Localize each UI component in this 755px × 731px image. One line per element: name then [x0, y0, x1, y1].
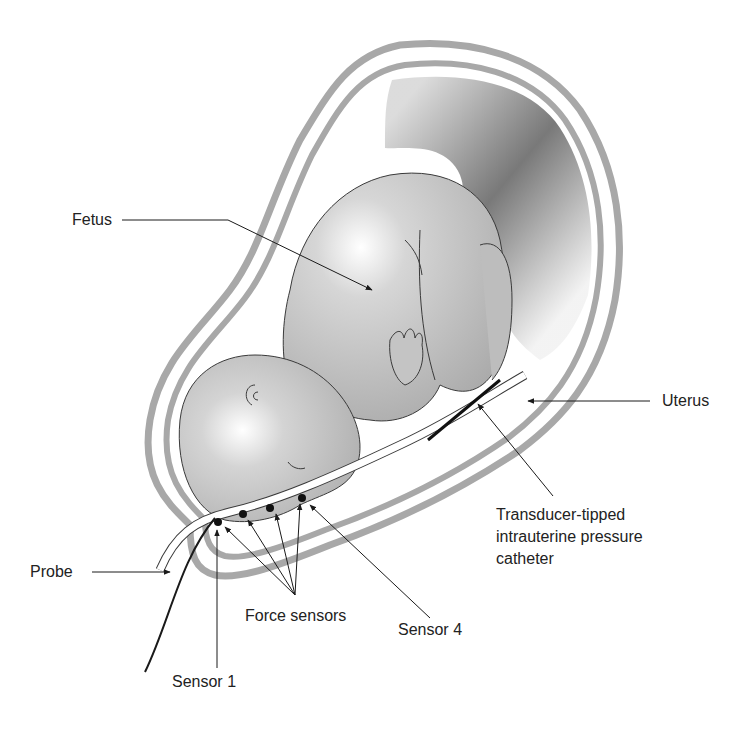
uterus-label: Uterus [662, 391, 709, 411]
catheter-label-line1: Transducer-tipped [496, 505, 625, 525]
fetus-label: Fetus [72, 210, 112, 230]
catheter-label-line2: intrauterine pressure [496, 527, 643, 547]
catheter-label-line3: catheter [496, 549, 554, 569]
force-sensors-label: Force sensors [245, 606, 346, 626]
probe-label: Probe [30, 562, 73, 582]
sensor-4 [298, 494, 306, 502]
sensor-1-label: Sensor 1 [172, 672, 236, 692]
sensor-4-label: Sensor 4 [398, 620, 462, 640]
sensor4-leader [310, 505, 430, 618]
sensor-1 [214, 518, 222, 526]
sensor-2 [239, 510, 247, 518]
diagram-canvas [0, 0, 755, 731]
sensor-3 [266, 504, 274, 512]
